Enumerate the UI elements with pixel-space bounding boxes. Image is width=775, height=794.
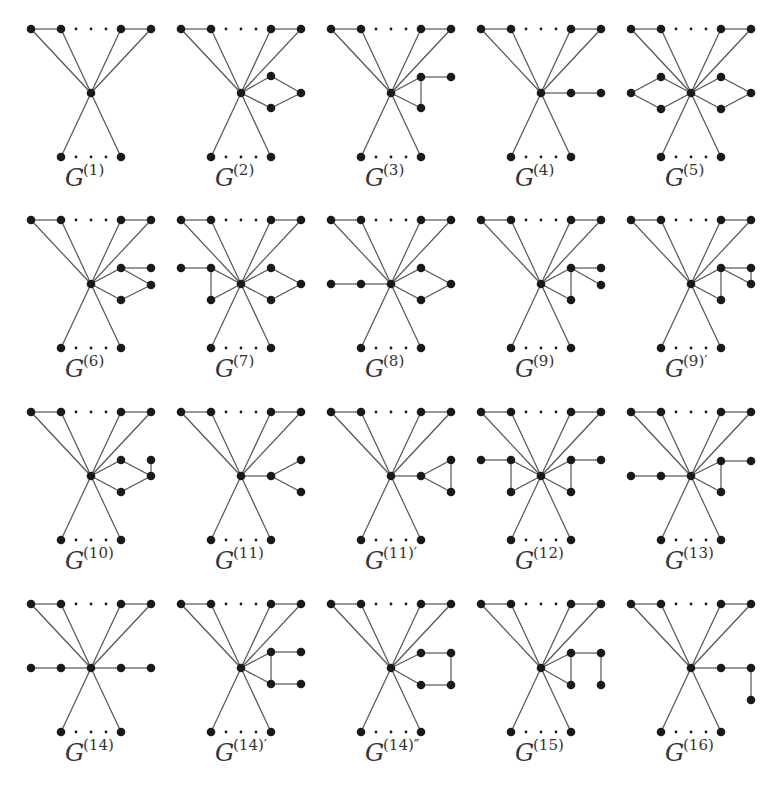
vertex [357, 153, 366, 162]
vertex [657, 153, 666, 162]
edge [121, 460, 151, 476]
edge [661, 93, 691, 157]
vertex [147, 264, 156, 273]
vertex [507, 153, 516, 162]
vertex [717, 488, 726, 497]
edge [91, 268, 121, 284]
graph-label: G [65, 355, 84, 383]
edge [211, 412, 241, 476]
edge [241, 412, 301, 476]
graph-label-superscript: (4) [533, 161, 554, 179]
vertex [567, 649, 576, 658]
vertex [447, 456, 456, 465]
graph-G11: G(11) [177, 408, 306, 575]
vertex [507, 25, 516, 34]
edge [91, 604, 151, 668]
ellipsis-dot [75, 156, 78, 159]
edge [91, 93, 121, 157]
vertex [447, 25, 456, 34]
vertex [687, 472, 696, 481]
graph-G14p: G(14)′ [177, 600, 306, 767]
ellipsis-dot [105, 411, 108, 414]
vertex [627, 25, 636, 34]
vertex [597, 681, 606, 690]
vertex [717, 600, 726, 609]
vertex [207, 408, 216, 417]
graph-label-superscript: (14)″ [383, 736, 420, 754]
vertex [327, 280, 336, 289]
graph-label-superscript: (14)′ [233, 736, 268, 754]
edge [691, 604, 721, 668]
edge [91, 220, 151, 284]
vertex [537, 89, 546, 98]
edge [331, 604, 391, 668]
ellipsis-dot [225, 411, 228, 414]
edge [511, 460, 541, 476]
edge [211, 220, 241, 284]
vertex [567, 728, 576, 737]
ellipsis-dot [705, 603, 708, 606]
vertex [147, 408, 156, 417]
ellipsis-dot [690, 411, 693, 414]
edge [661, 604, 691, 668]
edge [691, 93, 721, 157]
ellipsis-dot [690, 28, 693, 31]
edge [511, 668, 541, 732]
edge [541, 604, 571, 668]
ellipsis-dot [240, 603, 243, 606]
ellipsis-dot [705, 156, 708, 159]
vertex [567, 153, 576, 162]
vertex [657, 73, 666, 82]
vertex [147, 25, 156, 34]
edge [541, 29, 601, 93]
vertex [717, 153, 726, 162]
vertex [657, 344, 666, 353]
graph-G6: G(6) [27, 216, 156, 383]
ellipsis-dot [555, 731, 558, 734]
edge [271, 268, 301, 284]
vertex [567, 536, 576, 545]
vertex [357, 280, 366, 289]
ellipsis-dot [555, 539, 558, 542]
vertex [147, 472, 156, 481]
edge [631, 412, 691, 476]
edge [511, 412, 541, 476]
vertex [387, 664, 396, 673]
edge [31, 412, 91, 476]
vertex [147, 216, 156, 225]
vertex [747, 216, 756, 225]
ellipsis-dot [555, 28, 558, 31]
edge [511, 476, 541, 492]
vertex [117, 600, 126, 609]
edge [241, 668, 271, 732]
graph-label-superscript: (8) [383, 352, 404, 370]
ellipsis-dot [375, 411, 378, 414]
vertex [567, 600, 576, 609]
ellipsis-dot [75, 539, 78, 542]
vertex [417, 472, 426, 481]
ellipsis-dot [690, 731, 693, 734]
edge [721, 93, 751, 109]
vertex [687, 664, 696, 673]
edge [61, 29, 91, 93]
vertex [267, 680, 276, 689]
vertex [117, 536, 126, 545]
edge [91, 284, 121, 300]
vertex [297, 648, 306, 657]
edge [631, 220, 691, 284]
vertex [417, 344, 426, 353]
edge [421, 284, 451, 300]
ellipsis-dot [240, 156, 243, 159]
vertex [417, 153, 426, 162]
vertex [207, 153, 216, 162]
ellipsis-dot [375, 603, 378, 606]
graph-label: G [65, 164, 84, 192]
edge [241, 284, 271, 348]
vertex [207, 296, 216, 305]
edge [61, 93, 91, 157]
ellipsis-dot [705, 731, 708, 734]
vertex [117, 264, 126, 273]
vertex [207, 216, 216, 225]
vertex [597, 264, 606, 273]
ellipsis-dot [690, 219, 693, 222]
